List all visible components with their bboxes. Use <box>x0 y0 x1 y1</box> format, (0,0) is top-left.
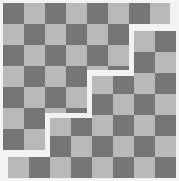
dark-square <box>3 87 25 109</box>
light-square <box>24 45 46 67</box>
dark-square <box>113 157 135 179</box>
checkerboard-canvas <box>0 0 179 181</box>
checkerboard-figure <box>0 0 179 181</box>
dark-square <box>87 3 109 25</box>
light-square <box>71 136 93 158</box>
dark-square <box>155 73 177 95</box>
dark-square <box>3 3 25 25</box>
light-square <box>3 108 25 130</box>
dark-square <box>50 136 72 158</box>
light-square <box>92 157 114 179</box>
dark-square <box>155 31 177 53</box>
dark-square <box>134 94 156 116</box>
dark-square <box>66 66 88 88</box>
dark-square <box>66 24 88 46</box>
light-square <box>155 94 177 116</box>
dark-square <box>29 157 51 179</box>
light-square <box>134 73 156 95</box>
dark-square <box>3 129 25 151</box>
light-square <box>66 3 88 25</box>
light-square <box>92 73 114 95</box>
dark-square <box>45 87 67 109</box>
light-square <box>66 45 88 67</box>
dark-square <box>24 24 46 46</box>
light-square <box>108 3 130 25</box>
light-square <box>150 3 172 25</box>
light-square <box>3 66 25 88</box>
light-square <box>50 157 72 179</box>
light-square <box>8 157 30 179</box>
dark-square <box>113 73 135 95</box>
dark-square <box>45 45 67 67</box>
light-square <box>134 31 156 53</box>
light-square <box>134 157 156 179</box>
light-square <box>87 24 109 46</box>
dark-square <box>3 45 25 67</box>
dark-square <box>71 157 93 179</box>
dark-square <box>24 66 46 88</box>
dark-square <box>108 24 130 46</box>
light-square <box>24 87 46 109</box>
light-square <box>45 66 67 88</box>
dark-square <box>129 3 151 25</box>
light-square <box>155 52 177 74</box>
dark-square <box>92 136 114 158</box>
dark-square <box>113 115 135 137</box>
light-square <box>113 94 135 116</box>
dark-square <box>24 108 46 130</box>
light-square <box>155 136 177 158</box>
dark-square <box>134 136 156 158</box>
dark-square <box>71 115 93 137</box>
light-square <box>134 115 156 137</box>
dark-square <box>87 45 109 67</box>
dark-square <box>155 157 177 179</box>
light-square <box>92 115 114 137</box>
dark-square <box>45 3 67 25</box>
dark-square <box>92 94 114 116</box>
light-square <box>24 129 46 151</box>
light-square <box>113 136 135 158</box>
light-square <box>24 3 46 25</box>
light-square <box>108 45 130 67</box>
light-square <box>45 24 67 46</box>
dark-square <box>134 52 156 74</box>
dark-square <box>155 115 177 137</box>
light-square <box>3 24 25 46</box>
light-square <box>66 87 88 109</box>
light-square <box>50 115 72 137</box>
